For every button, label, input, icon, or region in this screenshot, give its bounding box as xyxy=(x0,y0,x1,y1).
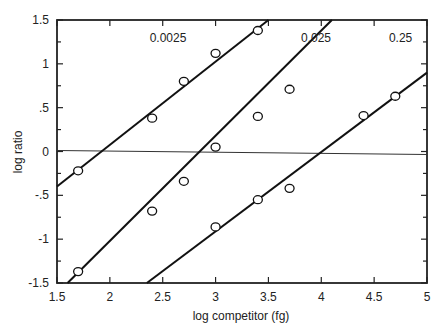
x-tick-label: 5 xyxy=(424,290,431,304)
y-tick-label: -1 xyxy=(38,232,49,246)
data-point xyxy=(74,268,83,276)
series-label: 0.25 xyxy=(389,31,413,45)
y-tick-label: -.5 xyxy=(35,188,49,202)
fit-line-0.0025 xyxy=(57,20,268,187)
data-point xyxy=(211,143,220,151)
data-point xyxy=(211,223,220,231)
x-tick-label: 3 xyxy=(212,290,219,304)
y-tick-label: 1 xyxy=(42,57,49,71)
y-axis-label: log ratio xyxy=(11,130,25,173)
x-tick-label: 4 xyxy=(318,290,325,304)
data-point xyxy=(211,49,220,57)
data-point xyxy=(253,112,262,120)
zero-line xyxy=(57,151,427,155)
y-tick-label: -1.5 xyxy=(28,276,49,290)
data-point xyxy=(253,27,262,35)
series-label: 0.0025 xyxy=(150,31,187,45)
data-point xyxy=(359,112,368,120)
data-point xyxy=(148,207,157,215)
data-point xyxy=(391,92,400,100)
x-axis-label: log competitor (fg) xyxy=(193,309,290,323)
data-point xyxy=(148,114,157,122)
data-point xyxy=(74,167,83,175)
y-tick-label: 0 xyxy=(42,145,49,159)
axes: 1.522.533.544.551.51.50-.5-1-1.5 xyxy=(28,13,430,304)
data-point xyxy=(253,196,262,204)
fit-line-0.25 xyxy=(147,73,427,283)
series-labels: 0.00250.0250.25 xyxy=(150,31,413,45)
series-label: 0.025 xyxy=(301,31,331,45)
x-tick-label: 2 xyxy=(107,290,114,304)
data-point xyxy=(179,177,188,185)
x-tick-label: 2.5 xyxy=(154,290,171,304)
x-tick-label: 4.5 xyxy=(366,290,383,304)
x-tick-label: 3.5 xyxy=(260,290,277,304)
data-point xyxy=(179,77,188,85)
y-tick-label: .5 xyxy=(39,101,49,115)
chart: 1.522.533.544.551.51.50-.5-1-1.5 0.00250… xyxy=(0,0,444,335)
x-tick-label: 1.5 xyxy=(49,290,66,304)
y-tick-label: 1.5 xyxy=(32,13,49,27)
data-point xyxy=(285,85,294,93)
data-point xyxy=(285,184,294,192)
